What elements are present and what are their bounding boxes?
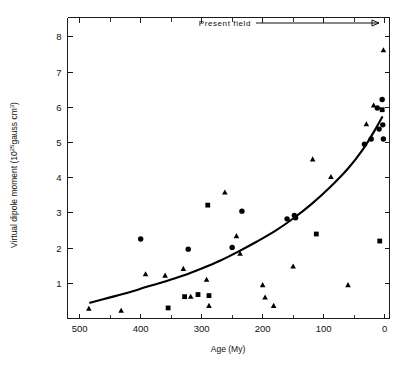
data-point-circle	[293, 215, 298, 220]
y-tick-label: 3	[56, 207, 61, 218]
data-point-square	[380, 107, 385, 112]
x-tick-label: 100	[316, 323, 332, 334]
data-point-triangle	[271, 303, 277, 308]
x-tick-label: 400	[133, 323, 149, 334]
data-point-circle	[376, 126, 381, 131]
data-point-triangle	[290, 263, 296, 268]
virtual-dipole-moment-scatter-plot: 12345678 5004003002001000 Present field …	[0, 0, 407, 366]
data-point-triangle	[86, 306, 92, 311]
data-point-square	[377, 239, 382, 244]
y-tick-label: 6	[56, 102, 61, 113]
y-axis-title: Virtual dipole moment (1025gauss cm3)	[9, 102, 19, 248]
data-point-square	[182, 294, 187, 299]
data-point-circle	[284, 216, 289, 221]
data-point-triangle	[118, 308, 124, 313]
x-tick-label: 300	[194, 323, 210, 334]
data-point-square	[314, 232, 319, 237]
data-point-triangle	[206, 303, 212, 308]
data-markers	[86, 47, 386, 313]
y-tick-label: 5	[56, 137, 61, 148]
data-point-triangle	[162, 273, 168, 278]
data-point-triangle	[328, 174, 334, 179]
x-axis-title: Age (My)	[211, 344, 246, 354]
axis-titles: Age (My) Virtual dipole moment (1025gaus…	[9, 102, 245, 354]
data-point-triangle	[310, 156, 316, 161]
data-point-circle	[380, 122, 385, 127]
x-axis-ticks: 5004003002001000	[72, 18, 388, 334]
present-field-annotation: Present field	[199, 19, 379, 28]
data-point-triangle	[204, 277, 210, 282]
data-point-square	[166, 306, 171, 311]
data-point-circle	[379, 97, 384, 102]
y-axis-ticks: 12345678	[56, 31, 389, 288]
data-point-triangle	[371, 103, 377, 108]
x-tick-label: 0	[382, 323, 387, 334]
x-tick-label: 200	[255, 323, 271, 334]
y-tick-label: 8	[56, 31, 61, 42]
data-point-circle	[362, 142, 367, 147]
data-point-square	[196, 292, 201, 297]
cut-off-caption	[0, 359, 407, 366]
data-point-circle	[381, 136, 386, 141]
data-point-square	[205, 203, 210, 208]
figure-container: 12345678 5004003002001000 Present field …	[0, 0, 407, 366]
fit-curve	[90, 117, 382, 303]
data-point-circle	[229, 245, 234, 250]
data-point-triangle	[188, 294, 194, 299]
data-point-triangle	[260, 282, 266, 287]
y-tick-label: 1	[56, 278, 61, 289]
plot-frame	[68, 18, 390, 319]
data-point-circle	[239, 208, 244, 213]
y-tick-label: 4	[56, 172, 61, 183]
data-point-triangle	[143, 271, 149, 276]
x-tick-label: 500	[72, 323, 88, 334]
data-point-triangle	[181, 266, 187, 271]
data-point-triangle	[345, 282, 351, 287]
data-point-square	[207, 293, 212, 298]
data-point-triangle	[364, 121, 370, 126]
data-point-circle	[369, 136, 374, 141]
data-point-triangle	[381, 47, 387, 52]
present-field-label: Present field	[199, 19, 251, 28]
data-point-triangle	[222, 189, 228, 194]
data-point-triangle	[234, 233, 240, 238]
data-point-circle	[138, 236, 143, 241]
y-tick-label: 2	[56, 243, 61, 254]
y-tick-label: 7	[56, 67, 61, 78]
data-point-circle	[186, 246, 191, 251]
data-point-triangle	[262, 294, 268, 299]
